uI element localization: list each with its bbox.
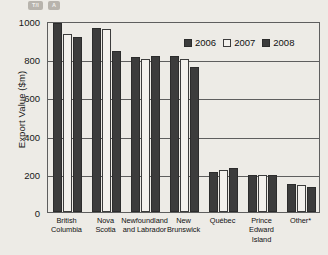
legend-label: 2008 [273, 37, 294, 48]
bar-groups [48, 23, 319, 212]
plot-area [47, 22, 320, 213]
bar-2007[interactable] [219, 170, 229, 212]
chart-figure: T/I A Export Value ($m) 1000800600400200… [0, 0, 328, 255]
bar-group [170, 56, 200, 212]
bar-2006[interactable] [170, 56, 180, 212]
x-tick-label-line: Other* [277, 216, 324, 225]
bar-2008[interactable] [151, 56, 161, 212]
x-tick-label-line: Brunswick [160, 225, 207, 234]
y-tick-1000: 1000 [0, 17, 40, 28]
y-tick-400: 400 [0, 131, 40, 142]
bar-2007[interactable] [180, 59, 190, 212]
y-axis-tick-labels: 10008006004002000 [0, 0, 44, 255]
bar-2007[interactable] [141, 59, 151, 212]
badge-a[interactable]: A [48, 1, 60, 10]
bar-2006[interactable] [92, 28, 102, 212]
bar-2006[interactable] [209, 172, 219, 212]
bar-2008[interactable] [268, 175, 278, 212]
legend-label: 2006 [195, 37, 216, 48]
legend-item-2007[interactable]: 2007 [223, 37, 255, 48]
y-tick-200: 200 [0, 169, 40, 180]
y-tick-800: 800 [0, 55, 40, 66]
bar-2007[interactable] [297, 185, 307, 212]
y-tick-600: 600 [0, 93, 40, 104]
bar-group [53, 23, 83, 212]
bar-2006[interactable] [287, 184, 297, 212]
bar-2006[interactable] [131, 57, 141, 212]
bar-2007[interactable] [63, 34, 73, 212]
x-axis-tick-labels: BritishColumbiaNovaScotiaNewfoundlandand… [47, 216, 320, 252]
bar-2008[interactable] [112, 51, 122, 212]
bar-2006[interactable] [248, 175, 258, 212]
legend-item-2008[interactable]: 2008 [262, 37, 294, 48]
x-tick-label: Other* [277, 216, 324, 225]
bar-group [131, 56, 161, 212]
bar-2008[interactable] [307, 187, 317, 212]
bar-2008[interactable] [229, 168, 239, 212]
x-tick-label-line: Island [238, 235, 285, 244]
legend-label: 2007 [234, 37, 255, 48]
bar-group [92, 28, 122, 212]
bar-group [209, 168, 239, 212]
bar-2007[interactable] [258, 175, 268, 212]
bar-group [287, 184, 317, 212]
legend-swatch-icon [262, 39, 270, 47]
bar-2007[interactable] [102, 29, 112, 212]
y-tick-0: 0 [0, 208, 40, 219]
legend-swatch-icon [184, 39, 192, 47]
bar-2008[interactable] [73, 37, 83, 212]
legend-swatch-icon [223, 39, 231, 47]
bar-2006[interactable] [53, 23, 63, 212]
bar-group [248, 175, 278, 212]
legend-item-2006[interactable]: 2006 [184, 37, 216, 48]
bar-2008[interactable] [190, 67, 200, 212]
chart-legend: 200620072008 [184, 37, 294, 48]
